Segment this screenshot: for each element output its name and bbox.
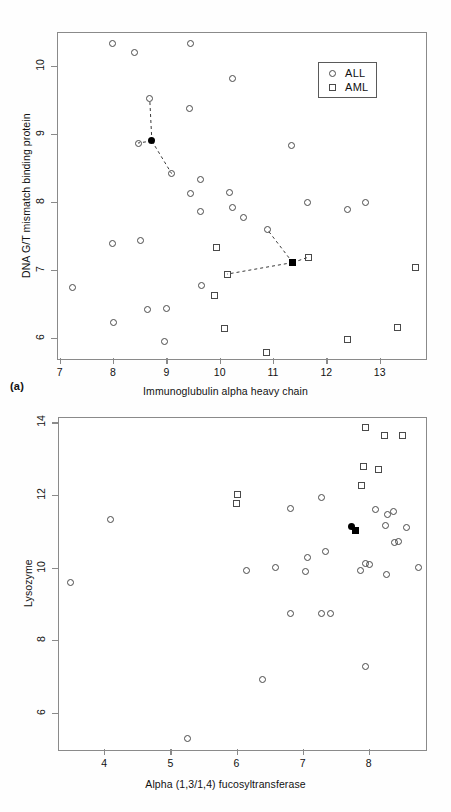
y-tick-label: 14 <box>35 410 47 432</box>
data-point-aml <box>305 254 312 261</box>
data-point-aml <box>360 463 367 470</box>
x-tick-mark <box>369 749 370 755</box>
y-tick-mark <box>52 640 58 641</box>
x-tick-mark <box>104 749 105 755</box>
data-point-aml <box>381 432 388 439</box>
x-tick-mark <box>170 749 171 755</box>
x-tick-label: 7 <box>291 757 315 769</box>
data-point-all-centroid <box>148 137 155 144</box>
x-tick-mark <box>380 358 381 364</box>
data-point-all <box>109 40 116 47</box>
y-tick-label: 6 <box>34 326 46 348</box>
data-point-aml <box>224 271 231 278</box>
data-point-aml <box>362 424 369 431</box>
data-point-all <box>288 142 295 149</box>
data-point-all <box>362 199 369 206</box>
data-point-aml <box>375 466 382 473</box>
data-point-all <box>184 735 191 742</box>
data-point-all <box>144 306 151 313</box>
y-tick-label: 7 <box>34 258 46 280</box>
data-point-all <box>357 567 364 574</box>
x-tick-mark <box>166 358 167 364</box>
data-point-all <box>146 95 153 102</box>
x-tick-mark <box>273 358 274 364</box>
y-tick-label: 6 <box>35 701 47 723</box>
data-point-all <box>372 506 379 513</box>
x-tick-label: 4 <box>92 757 116 769</box>
x-tick-mark <box>220 358 221 364</box>
data-point-aml <box>358 482 365 489</box>
data-point-all <box>318 610 325 617</box>
data-point-all <box>198 282 205 289</box>
y-tick-label: 8 <box>35 628 47 650</box>
x-tick-label: 8 <box>101 366 125 378</box>
y-tick-label: 10 <box>34 54 46 76</box>
x-tick-mark <box>326 358 327 364</box>
data-point-all <box>240 214 247 221</box>
y-tick-mark <box>51 66 57 67</box>
x-tick-mark <box>303 749 304 755</box>
data-point-all <box>187 40 194 47</box>
x-axis-label-a: Immunoglubulin alpha heavy chain <box>0 385 451 397</box>
panel-tag-a: (a) <box>10 380 24 392</box>
data-point-all <box>168 170 175 177</box>
x-tick-mark <box>60 358 61 364</box>
data-point-all <box>304 199 311 206</box>
data-point-all <box>383 571 390 578</box>
data-point-all <box>415 564 422 571</box>
y-tick-label: 9 <box>34 122 46 144</box>
data-point-all <box>226 189 233 196</box>
y-tick-label: 12 <box>35 483 47 505</box>
legend-entry-all-a: ALL <box>324 66 369 80</box>
y-tick-mark <box>51 202 57 203</box>
data-point-all <box>135 140 142 147</box>
data-point-all <box>67 579 74 586</box>
y-tick-mark <box>52 568 58 569</box>
square-marker-icon <box>324 84 340 91</box>
y-tick-mark <box>52 495 58 496</box>
y-tick-mark <box>51 270 57 271</box>
x-tick-label: 8 <box>357 757 381 769</box>
data-point-aml <box>412 264 419 271</box>
data-point-all <box>109 240 116 247</box>
data-point-all <box>272 564 279 571</box>
data-point-all <box>243 567 250 574</box>
plot-area-b <box>58 417 427 751</box>
data-point-aml <box>211 292 218 299</box>
legend-label-all-a: ALL <box>345 67 365 79</box>
data-point-all <box>322 548 329 555</box>
y-axis-label-b: Lysozyme <box>22 559 34 607</box>
data-point-all <box>344 206 351 213</box>
legend-entry-aml-a: AML <box>324 80 369 94</box>
data-point-all <box>161 338 168 345</box>
data-point-aml <box>221 325 228 332</box>
data-point-all <box>390 508 397 515</box>
data-point-all <box>107 516 114 523</box>
data-point-all <box>382 522 389 529</box>
data-point-all <box>395 538 402 545</box>
data-point-aml <box>263 349 270 356</box>
data-point-aml <box>233 500 240 507</box>
legend-label-aml-a: AML <box>345 81 369 93</box>
x-tick-label: 10 <box>208 366 232 378</box>
x-tick-label: 11 <box>261 366 285 378</box>
data-point-all <box>403 524 410 531</box>
data-point-all <box>327 610 334 617</box>
data-point-all <box>259 676 266 683</box>
x-tick-mark <box>237 749 238 755</box>
data-points-b <box>59 418 426 750</box>
data-point-all <box>304 554 311 561</box>
x-tick-label: 13 <box>368 366 392 378</box>
data-point-all <box>187 190 194 197</box>
y-axis-label-a: DNA G/T mismatch binding protein <box>20 113 32 278</box>
data-point-all <box>137 237 144 244</box>
data-point-aml <box>394 324 401 331</box>
data-point-all <box>229 75 236 82</box>
data-point-aml <box>344 336 351 343</box>
y-tick-mark <box>52 713 58 714</box>
scatter-panel-b: 68101214 45678 Lysozyme Alpha (1,3/1,4) … <box>0 406 451 812</box>
data-point-all <box>197 176 204 183</box>
data-point-all <box>302 568 309 575</box>
x-tick-label: 6 <box>225 757 249 769</box>
data-point-all <box>186 105 193 112</box>
